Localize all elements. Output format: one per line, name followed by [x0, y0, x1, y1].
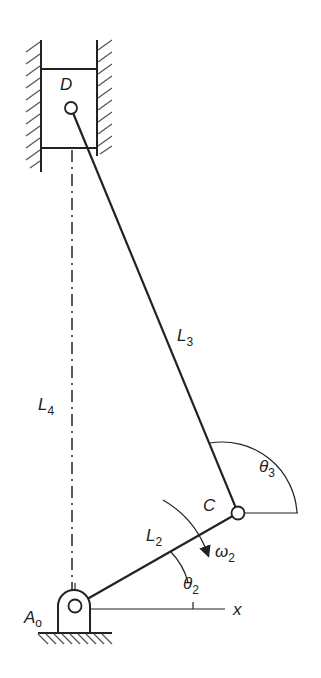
label-d: D [60, 75, 72, 94]
label-ao: Ao [23, 608, 42, 630]
right-wall-hatch [98, 40, 112, 154]
label-c: C [203, 496, 216, 515]
crank-link [75, 513, 238, 606]
slider-crank-diagram: D L3 L4 θ3 C L2 ω2 θ2 x Ao [0, 0, 321, 678]
pin-ao [69, 600, 82, 613]
pin-c [232, 507, 245, 520]
label-l3: L3 [177, 326, 193, 349]
left-wall-hatch [26, 42, 40, 168]
label-x-axis: x [232, 600, 242, 619]
label-l2: L2 [146, 526, 162, 549]
ground-hatch [38, 634, 112, 644]
label-theta2: θ2 [183, 574, 199, 597]
label-l4: L4 [38, 395, 54, 418]
pin-d [65, 102, 77, 114]
coupler-link [71, 108, 238, 513]
label-omega2: ω2 [215, 542, 235, 565]
label-theta3: θ3 [259, 457, 275, 480]
